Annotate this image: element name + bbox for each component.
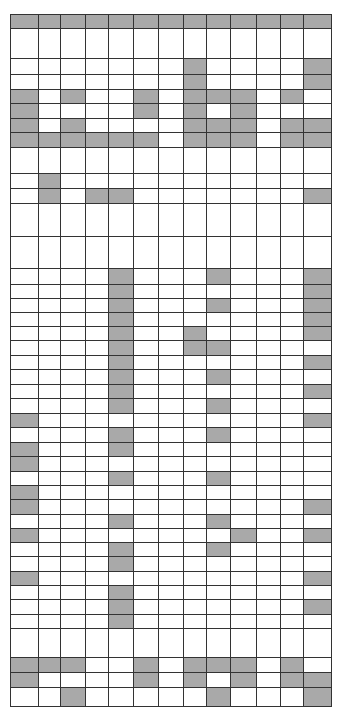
grid-cell-filled — [304, 414, 332, 427]
grid-cell-empty — [86, 29, 109, 58]
grid-cell-empty — [207, 313, 231, 326]
grid-cell-empty — [134, 428, 159, 442]
grid-cell-filled — [304, 133, 332, 147]
grid-cell-filled — [109, 472, 134, 485]
grid-cell-empty — [39, 90, 61, 103]
grid-cell-empty — [304, 29, 332, 58]
grid-cell-empty — [207, 414, 231, 427]
grid-cell-empty — [86, 119, 109, 132]
grid-cell-empty — [39, 443, 61, 456]
grid-cell-empty — [281, 428, 304, 442]
grid-cell-empty — [39, 673, 61, 687]
grid-cell-empty — [184, 688, 207, 706]
grid-cell-empty — [159, 500, 184, 514]
grid-cell-empty — [231, 486, 257, 499]
grid-cell-filled — [61, 133, 86, 147]
grid-cell-empty — [304, 457, 332, 471]
grid-cell-filled — [39, 15, 61, 28]
grid-cell-filled — [184, 90, 207, 103]
grid-cell-empty — [39, 515, 61, 528]
grid-cell-empty — [207, 500, 231, 514]
grid-cell-empty — [304, 486, 332, 499]
grid-cell-empty — [61, 341, 86, 355]
grid-cell-empty — [184, 385, 207, 398]
grid-cell-filled — [109, 327, 134, 340]
grid-cell-empty — [231, 615, 257, 628]
grid-cell-filled — [304, 529, 332, 542]
grid-row — [11, 75, 332, 90]
grid-cell-empty — [231, 572, 257, 585]
grid-cell-empty — [86, 341, 109, 355]
grid-cell-empty — [134, 148, 159, 173]
grid-cell-empty — [281, 29, 304, 58]
grid-row — [11, 370, 332, 385]
grid-cell-filled — [184, 133, 207, 147]
grid-cell-empty — [184, 370, 207, 384]
grid-cell-empty — [304, 658, 332, 672]
grid-cell-empty — [207, 29, 231, 58]
grid-cell-empty — [61, 673, 86, 687]
grid-cell-empty — [86, 269, 109, 284]
grid-cell-filled — [159, 15, 184, 28]
grid-cell-empty — [159, 75, 184, 89]
grid-cell-empty — [11, 557, 39, 571]
grid-cell-empty — [281, 204, 304, 236]
grid-cell-filled — [109, 443, 134, 456]
grid-cell-empty — [281, 443, 304, 456]
grid-cell-empty — [207, 615, 231, 628]
grid-cell-filled — [86, 15, 109, 28]
grid-cell-empty — [159, 370, 184, 384]
grid-cell-empty — [86, 443, 109, 456]
grid-cell-filled — [304, 688, 332, 706]
grid-row — [11, 90, 332, 104]
grid-cell-empty — [11, 174, 39, 188]
grid-cell-empty — [11, 428, 39, 442]
grid-cell-empty — [86, 688, 109, 706]
grid-cell-empty — [39, 29, 61, 58]
grid-row — [11, 133, 332, 148]
grid-cell-empty — [281, 629, 304, 657]
grid-cell-empty — [61, 529, 86, 542]
grid-cell-filled — [281, 133, 304, 147]
grid-cell-empty — [257, 572, 281, 585]
grid-cell-empty — [61, 572, 86, 585]
grid-cell-empty — [207, 285, 231, 298]
grid-cell-empty — [281, 356, 304, 369]
grid-cell-empty — [61, 204, 86, 236]
grid-row — [11, 673, 332, 688]
grid-cell-filled — [304, 385, 332, 398]
grid-cell-empty — [281, 299, 304, 312]
grid-cell-empty — [257, 237, 281, 268]
grid-cell-filled — [304, 600, 332, 614]
grid-cell-empty — [281, 615, 304, 628]
grid-cell-empty — [207, 75, 231, 89]
grid-cell-empty — [86, 586, 109, 599]
grid-cell-empty — [39, 428, 61, 442]
grid-cell-empty — [304, 237, 332, 268]
grid-cell-empty — [11, 299, 39, 312]
grid-cell-empty — [159, 600, 184, 614]
grid-cell-empty — [86, 356, 109, 369]
grid-cell-empty — [207, 557, 231, 571]
grid-cell-filled — [281, 658, 304, 672]
grid-cell-filled — [304, 572, 332, 585]
grid-cell-filled — [304, 500, 332, 514]
grid-cell-empty — [39, 399, 61, 413]
grid-cell-filled — [109, 189, 134, 203]
grid-cell-empty — [257, 443, 281, 456]
grid-cell-empty — [39, 472, 61, 485]
grid-cell-empty — [134, 443, 159, 456]
grid-cell-empty — [134, 543, 159, 556]
grid-cell-empty — [184, 399, 207, 413]
grid-cell-filled — [207, 688, 231, 706]
grid-row — [11, 29, 332, 59]
grid-cell-filled — [207, 90, 231, 103]
grid-cell-empty — [39, 586, 61, 599]
grid-cell-empty — [11, 59, 39, 74]
grid-cell-filled — [11, 15, 39, 28]
grid-cell-empty — [207, 529, 231, 542]
grid-cell-empty — [304, 472, 332, 485]
grid-cell-empty — [159, 104, 184, 118]
grid-cell-empty — [86, 486, 109, 499]
grid-cell-filled — [61, 15, 86, 28]
